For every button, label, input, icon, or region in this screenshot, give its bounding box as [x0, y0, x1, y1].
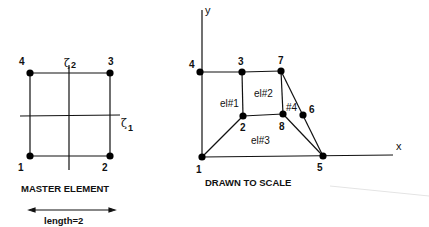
element-label: #4 [286, 102, 298, 113]
scaled-node-label-1: 1 [196, 164, 202, 175]
element-label: el#3 [251, 135, 270, 146]
element-label: el#2 [254, 88, 273, 99]
fem-diagram: ζ 2 ζ 1 1234 MASTER ELEMENT length=2 y x… [0, 0, 429, 227]
scaled-node-1 [198, 153, 205, 160]
zeta2-subscript: 2 [71, 60, 76, 70]
scaled-node-label-7: 7 [278, 55, 284, 66]
scaled-node-label-2: 2 [240, 122, 246, 133]
zeta1-symbol: ζ [121, 117, 127, 130]
master-node-label-1: 1 [18, 162, 24, 173]
y-axis-label: y [205, 4, 211, 16]
edge-3-2 [242, 72, 243, 116]
length-arrow [29, 208, 115, 212]
scaled-node-label-8: 8 [279, 121, 285, 132]
edge-8-5 [283, 114, 323, 156]
drawn-to-scale-caption: DRAWN TO SCALE [205, 177, 291, 188]
master-node-4 [26, 69, 33, 76]
scan-artifact [330, 186, 429, 196]
master-element-square [30, 73, 110, 156]
master-node-1 [26, 152, 33, 159]
master-node-2 [106, 152, 113, 159]
scaled-node-6 [299, 111, 306, 118]
scaled-node-label-5: 5 [317, 162, 323, 173]
scaled-node-label-4: 4 [189, 59, 195, 70]
element-label: el#1 [220, 98, 239, 109]
length-label: length=2 [44, 215, 83, 226]
master-element: ζ 2 ζ 1 1234 MASTER ELEMENT length=2 [18, 56, 133, 226]
master-node-label-4: 4 [19, 56, 25, 67]
zeta1-axis [20, 115, 120, 116]
scaled-node-4 [196, 68, 203, 75]
x-axis [202, 155, 393, 157]
edge-2-8 [243, 114, 283, 116]
master-node-label-3: 3 [108, 56, 114, 67]
master-element-caption: MASTER ELEMENT [21, 183, 109, 194]
scaled-node-7 [277, 67, 284, 74]
edge-7-8 [281, 71, 283, 114]
scaled-mesh: y x 12345678 el#1el#2el#3#4 DRAWN TO SCA… [189, 4, 402, 188]
zeta1-subscript: 1 [128, 123, 133, 133]
zeta2-symbol: ζ [64, 57, 70, 70]
scaled-node-5 [319, 152, 326, 159]
scaled-node-2 [239, 112, 246, 119]
x-axis-label: x [396, 140, 402, 152]
master-node-label-2: 2 [102, 162, 108, 173]
scaled-node-label-6: 6 [309, 104, 315, 115]
scaled-node-3 [238, 68, 245, 75]
scaled-node-label-3: 3 [238, 56, 244, 67]
edge-1-2 [202, 116, 243, 157]
master-node-3 [106, 69, 113, 76]
